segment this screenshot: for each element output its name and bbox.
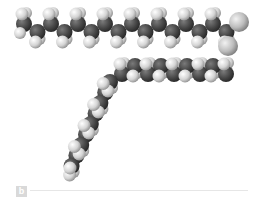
- hydrogen-atom: [56, 36, 69, 49]
- hydrogen-atom: [127, 70, 140, 83]
- hydrogen-atom: [114, 58, 127, 71]
- panel-label: b: [16, 186, 27, 197]
- hydrogen-atom: [164, 36, 177, 49]
- hydrogen-atom: [124, 8, 137, 21]
- oxygen-atom: [229, 12, 249, 32]
- hydrogen-atom: [87, 98, 100, 111]
- hydrogen-atom: [43, 8, 56, 21]
- hydrogen-atom: [16, 8, 29, 21]
- hydrogen-atom: [64, 162, 77, 175]
- hydrogen-atom: [14, 27, 26, 39]
- hydrogen-atom: [205, 8, 218, 21]
- divider-rule: [30, 190, 248, 191]
- hydrogen-atom: [83, 36, 96, 49]
- hydrogen-atom: [166, 58, 179, 71]
- hydrogen-atom: [68, 140, 81, 153]
- oxygen-atom: [218, 36, 238, 56]
- hydrogen-atom: [140, 58, 153, 71]
- hydrogen-atom: [97, 77, 110, 90]
- lower-chain: [63, 57, 234, 182]
- hydrogen-atom: [110, 36, 123, 49]
- hydrogen-atom: [191, 36, 204, 49]
- hydrogen-atom: [151, 8, 164, 21]
- hydrogen-atom: [97, 8, 110, 21]
- hydrogen-atom: [137, 36, 150, 49]
- molecular-model-figure: [0, 0, 266, 202]
- hydrogen-atom: [192, 58, 205, 71]
- hydrogen-atom: [218, 58, 231, 71]
- hydrogen-atom: [153, 70, 166, 83]
- hydrogen-atom: [70, 8, 83, 21]
- hydrogen-atom: [178, 8, 191, 21]
- hydrogen-atom: [179, 70, 192, 83]
- hydrogen-atom: [78, 119, 91, 132]
- upper-chain: [14, 7, 235, 49]
- hydrogen-atom: [205, 70, 218, 83]
- hydrogen-atom: [29, 36, 42, 49]
